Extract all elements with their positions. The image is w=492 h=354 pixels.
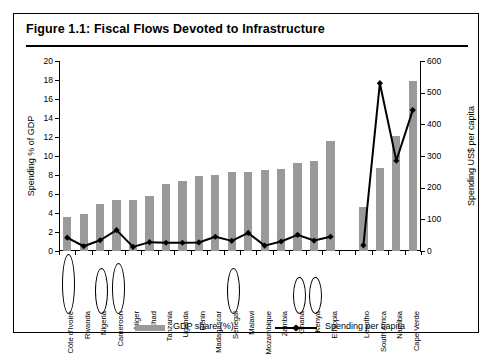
- right-tick-label: 100: [427, 215, 441, 224]
- left-tick-label: 12: [44, 133, 53, 142]
- category-highlight-ellipse: [227, 268, 240, 314]
- left-tick-label: 14: [44, 114, 53, 123]
- line-marker: [146, 239, 152, 245]
- right-tick-label: 400: [427, 120, 441, 129]
- line-marker: [327, 234, 333, 240]
- line-marker: [393, 158, 399, 164]
- line-marker: [311, 237, 317, 243]
- line-marker: [212, 234, 218, 240]
- left-axis-title-text: Spending % of GDP: [26, 61, 36, 251]
- right-tick-label: 0: [427, 247, 432, 256]
- line-path: [363, 83, 412, 245]
- category-highlight-ellipse: [293, 277, 306, 314]
- category-highlight-ellipse: [95, 268, 108, 314]
- right-tick-label: 500: [427, 88, 441, 97]
- left-tick-label: 8: [48, 171, 53, 180]
- plot-inner: 02468101214161820 0100200300400500600: [59, 61, 421, 251]
- left-tick-label: 4: [48, 209, 53, 218]
- line-marker: [179, 240, 185, 246]
- x-tick: [421, 251, 422, 255]
- line-marker: [163, 240, 169, 246]
- title-divider: [26, 45, 468, 47]
- right-tick-label: 600: [427, 57, 441, 66]
- left-tick-label: 20: [44, 57, 53, 66]
- chart-legend: GDP share (%) Spending per capita: [59, 319, 459, 337]
- left-tick-label: 16: [44, 95, 53, 104]
- legend-line-label: Spending per capita: [325, 321, 405, 331]
- left-tick-label: 2: [48, 228, 53, 237]
- line-marker: [294, 232, 300, 238]
- line-marker: [229, 238, 235, 244]
- line-marker: [196, 239, 202, 245]
- right-axis-title-text: Spending US$ per capita: [466, 61, 476, 251]
- plot-area: 02468101214161820 0100200300400500600: [59, 61, 421, 251]
- category-labels: Côte d'IvoireRwandaNigeriaCameroonNigerC…: [59, 253, 421, 315]
- right-tick-label: 200: [427, 183, 441, 192]
- line-marker: [360, 242, 366, 248]
- category-highlight-ellipse: [309, 277, 322, 314]
- figure-title: Figure 1.1: Fiscal Flows Devoted to Infr…: [26, 22, 325, 36]
- legend-bar-swatch: [135, 325, 165, 331]
- figure-frame: Figure 1.1: Fiscal Flows Devoted to Infr…: [13, 13, 479, 333]
- left-tick-label: 0: [48, 247, 53, 256]
- line-marker: [410, 107, 416, 113]
- right-tick-label: 300: [427, 152, 441, 161]
- legend-bar-label: GDP share (%): [173, 321, 234, 331]
- line-marker: [278, 238, 284, 244]
- left-tick-label: 6: [48, 190, 53, 199]
- left-tick-label: 18: [44, 76, 53, 85]
- line-marker: [377, 80, 383, 86]
- category-highlight-ellipse: [62, 254, 75, 314]
- left-tick-label: 10: [44, 152, 53, 161]
- category-highlight-ellipse: [112, 263, 125, 314]
- legend-line-swatch: [275, 324, 317, 332]
- line-series: [59, 61, 421, 251]
